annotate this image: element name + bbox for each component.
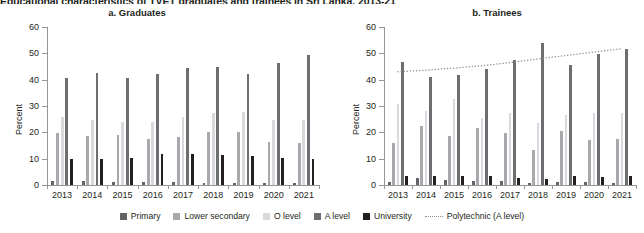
x-axis-tick	[228, 185, 229, 189]
bar-o-level-2020	[593, 113, 596, 185]
y-axis-tick-label: 40	[366, 75, 376, 85]
y-axis-tick-label: 50	[366, 48, 376, 58]
bar-primary-2014	[82, 181, 85, 185]
bar-primary-2016	[472, 181, 475, 185]
y-axis-tick-label: 10	[366, 154, 376, 164]
bar-university-2020	[601, 177, 604, 185]
y-axis-tick	[379, 80, 384, 81]
legend-square-swatch-icon	[173, 213, 180, 220]
y-axis-tick	[379, 106, 384, 107]
bar-o-level-2019	[242, 112, 245, 185]
bar-primary-2018	[528, 183, 531, 185]
bar-lower-secondary-2019	[237, 132, 240, 185]
y-axis-tick-label: 10	[29, 154, 39, 164]
legend-square-swatch-icon	[120, 213, 127, 220]
y-axis-tick-label: 60	[366, 22, 376, 32]
bar-o-level-2018	[212, 113, 215, 185]
legend-item-lower-secondary[interactable]: Lower secondary	[173, 211, 249, 221]
bar-primary-2016	[142, 182, 145, 185]
y-axis-tick	[42, 106, 47, 107]
bar-primary-2019	[233, 183, 236, 185]
bar-lower-secondary-2014	[420, 126, 423, 186]
bar-a-level-2015	[126, 78, 129, 185]
bar-a-level-2020	[277, 63, 280, 185]
bar-university-2019	[251, 156, 254, 185]
bar-lower-secondary-2018	[532, 150, 535, 185]
bar-a-level-2018	[541, 43, 544, 185]
bar-primary-2021	[293, 183, 296, 185]
bar-a-level-2018	[216, 67, 219, 185]
bar-a-level-2013	[401, 62, 404, 185]
chart-panel-trainees: b. Trainees Percent 01020304050602013201…	[330, 0, 644, 205]
bar-a-level-2017	[186, 68, 189, 185]
legend-item-o-level[interactable]: O level	[263, 211, 301, 221]
bar-a-level-2014	[429, 77, 432, 185]
x-axis-tick	[496, 185, 497, 189]
legend-label: Primary	[131, 211, 161, 221]
legend-item-university[interactable]: University	[363, 211, 412, 221]
legend-item-a-level[interactable]: A level	[314, 211, 350, 221]
x-axis-tick-label: 2021	[294, 190, 314, 200]
x-axis-tick-label: 2020	[584, 190, 604, 200]
y-axis-tick-label: 20	[29, 127, 39, 137]
legend-square-swatch-icon	[314, 213, 321, 220]
y-axis-tick-label: 0	[34, 180, 39, 190]
legend-item-polytechnic-a-level-[interactable]: Polytechnic (A level)	[425, 211, 524, 221]
y-axis-tick	[42, 132, 47, 133]
x-axis-tick	[412, 185, 413, 189]
bar-a-level-2021	[625, 49, 628, 185]
bar-primary-2013	[388, 182, 391, 185]
bar-lower-secondary-2018	[207, 132, 210, 185]
legend-label: O level	[274, 211, 301, 221]
bar-lower-secondary-2015	[117, 135, 120, 185]
bar-university-2018	[221, 155, 224, 185]
x-axis-tick	[168, 185, 169, 189]
legend-line-swatch-icon	[425, 216, 443, 217]
x-axis-tick-label: 2019	[233, 190, 253, 200]
y-axis-tick	[42, 159, 47, 160]
x-axis-tick-label: 2020	[264, 190, 284, 200]
bar-lower-secondary-2021	[616, 139, 619, 185]
x-axis-tick	[468, 185, 469, 189]
bar-university-2015	[130, 158, 133, 185]
bar-o-level-2015	[453, 99, 456, 185]
x-axis-tick	[138, 185, 139, 189]
x-axis-tick-label: 2021	[612, 190, 632, 200]
bar-lower-secondary-2021	[298, 143, 301, 185]
legend-item-primary[interactable]: Primary	[120, 211, 161, 221]
x-axis-tick-label: 2014	[416, 190, 436, 200]
trend-path	[398, 49, 622, 72]
y-axis-tick-label: 30	[29, 101, 39, 111]
legend-square-swatch-icon	[363, 213, 370, 220]
x-axis-tick-label: 2014	[82, 190, 102, 200]
bar-primary-2019	[556, 182, 559, 185]
bar-lower-secondary-2013	[56, 133, 59, 185]
y-axis-tick-label: 40	[29, 75, 39, 85]
bar-primary-2014	[416, 178, 419, 185]
bar-university-2018	[545, 179, 548, 185]
x-axis-tick-label: 2017	[173, 190, 193, 200]
bar-a-level-2014	[96, 73, 99, 185]
x-axis-tick	[47, 185, 48, 189]
bar-a-level-2016	[156, 74, 159, 185]
bar-o-level-2020	[272, 120, 275, 185]
legend-label: University	[374, 211, 412, 221]
bar-o-level-2021	[621, 113, 624, 185]
x-axis-tick	[524, 185, 525, 189]
x-axis-tick	[289, 185, 290, 189]
x-axis-tick	[580, 185, 581, 189]
bar-lower-secondary-2016	[147, 139, 150, 185]
bar-o-level-2018	[537, 123, 540, 185]
panel-title-trainees: b. Trainees	[340, 7, 644, 18]
y-axis-tick	[42, 27, 47, 28]
bar-o-level-2014	[91, 120, 94, 185]
bar-o-level-2021	[302, 120, 305, 185]
plot-area-graduates: 0102030405060201320142015201620172018201…	[47, 27, 319, 185]
bar-primary-2017	[500, 181, 503, 185]
bar-o-level-2013	[61, 117, 64, 185]
y-axis-tick	[379, 27, 384, 28]
bar-primary-2017	[172, 182, 175, 185]
bar-university-2016	[161, 154, 164, 185]
x-axis-tick	[107, 185, 108, 189]
x-axis-tick	[552, 185, 553, 189]
